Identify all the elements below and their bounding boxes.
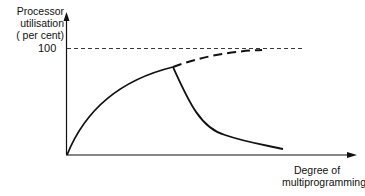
x-axis-label-line-1: Degree of <box>282 164 352 176</box>
x-axis-label-line-2: multiprogramming <box>282 176 352 188</box>
x-axis-arrow-icon <box>347 152 357 158</box>
y-axis-label: Processor utilisation ( per cent) <box>6 5 64 41</box>
x-axis-label: Degree of multiprogramming <box>282 164 352 188</box>
y-axis-arrow-icon <box>64 12 70 21</box>
y-axis-label-line-2: utilisation <box>6 17 64 29</box>
utilisation-curve-thrashing <box>173 67 283 149</box>
utilisation-curve-ideal <box>173 50 262 67</box>
y-tick-100: 100 <box>38 42 56 54</box>
utilisation-curve-rising <box>67 67 173 155</box>
y-axis-label-line-1: Processor <box>6 5 64 17</box>
y-axis-label-line-3: ( per cent) <box>6 29 64 41</box>
